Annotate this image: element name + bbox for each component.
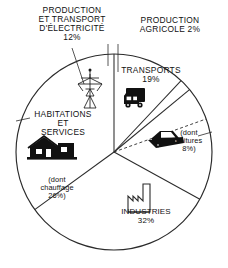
label-habitations-services: HABITATIONS ET SERVICES [22, 110, 104, 137]
label-production-agricole: PRODUCTION AGRICOLE 2% [120, 16, 220, 34]
label-dont-chauffage: (dont chauffage 26%) [24, 176, 90, 200]
label-dont-voitures: (dont voitures 8%) [163, 129, 215, 153]
label-transports: TRANSPORTS 19% [116, 66, 186, 84]
pie-chart-figure: PRODUCTION ET TRANSPORT D'ÉLECTRICITÉ 12… [0, 0, 228, 268]
label-production-electricite: PRODUCTION ET TRANSPORT D'ÉLECTRICITÉ 12… [20, 6, 124, 42]
label-industries: INDUSTRIES 32% [110, 208, 182, 225]
